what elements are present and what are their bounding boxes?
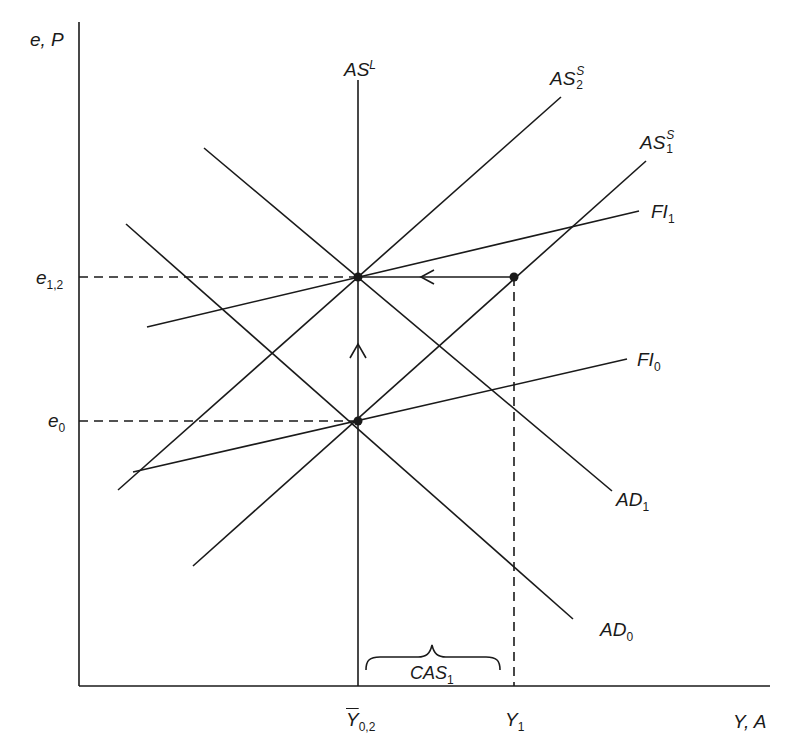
label-cas1-main: CAS [410,663,447,683]
label-as2-sub: 2 [576,79,583,91]
tick-label-y1: Y1 [505,710,524,733]
label-cas1-sub: 1 [447,673,454,687]
x-axis-label: Y, A [733,712,766,731]
label-ad1: AD1 [616,490,649,513]
tick-e0-main: e [48,410,59,431]
tick-label-e12: e1,2 [36,268,63,291]
label-as2-main: AS [550,68,575,89]
label-fi0-main: FI [637,349,654,370]
tick-y1-sub: 1 [518,720,525,734]
y-axis-label-text: e, P [30,29,64,50]
label-as1-sub: 1 [666,143,673,155]
label-as-long-run: ASL [344,59,376,79]
label-as2-sup: S [576,65,584,77]
point-y1-e12 [510,273,519,282]
label-as-long-run-main: AS [344,59,369,80]
curve-as2-short-run [118,97,561,490]
diagram-canvas [0,0,801,751]
label-ad0-sub: 0 [626,630,633,644]
tick-e12-main: e [36,267,47,288]
label-as1-short-run: ASS1 [640,133,675,152]
label-fi0: FI0 [637,350,661,373]
label-as1-sup: S [666,129,674,141]
curve-ad0 [126,224,573,619]
label-fi1: FI1 [651,202,675,225]
tick-label-ybar: Y0,2 [346,710,375,733]
label-fi0-sub: 0 [654,360,661,374]
tick-e12-sub: 1,2 [47,278,64,292]
label-ad1-sub: 1 [642,500,649,514]
label-fi1-sub: 1 [668,212,675,226]
label-cas1: CAS1 [410,664,454,686]
x-axis-label-text: Y, A [733,711,766,732]
tick-ybar-sub: 0,2 [359,720,376,734]
label-ad0-main: AD [600,619,626,640]
tick-label-e0: e0 [48,411,65,434]
tick-e0-sub: 0 [59,421,66,435]
label-ad0: AD0 [600,620,633,643]
curve-fi0 [133,359,627,472]
label-as-long-run-sup: L [369,58,376,72]
tick-y1-main: Y [505,709,518,730]
label-ad1-main: AD [616,489,642,510]
tick-ybar-main: Y [346,709,359,730]
y-axis-label: e, P [30,30,64,49]
curve-fi1 [147,211,639,327]
curve-ad1 [204,148,612,491]
label-as1-main: AS [640,132,665,153]
label-fi1-main: FI [651,201,668,222]
point-e12 [354,273,363,282]
point-e0 [354,417,363,426]
label-as2-short-run: ASS2 [550,69,585,88]
